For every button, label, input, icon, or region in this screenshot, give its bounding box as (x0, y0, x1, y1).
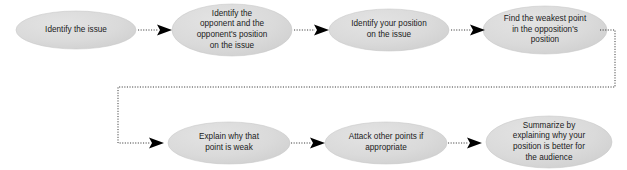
node-explain-why-point-is-weak (168, 122, 290, 164)
arrowhead-into-attack-node (310, 138, 325, 149)
node-identify-your-position (329, 9, 449, 51)
arrowhead-into-your-position-node (314, 25, 329, 36)
node-find-weakest-point (483, 6, 607, 54)
flowchart-canvas (0, 0, 627, 170)
arrowhead-into-weakest-node (470, 25, 485, 36)
arrowhead-into-summarize-node (467, 138, 482, 149)
node-attack-other-points (325, 122, 447, 164)
flowchart-diagram: Identify the issue Identify the opponent… (0, 0, 627, 170)
node-summarize-position (486, 116, 612, 168)
arrowhead-into-explain-node (149, 138, 164, 149)
node-identify-the-issue (16, 11, 136, 49)
arrowhead-into-opponent-node (157, 25, 172, 36)
node-identify-opponent-position (172, 4, 292, 56)
